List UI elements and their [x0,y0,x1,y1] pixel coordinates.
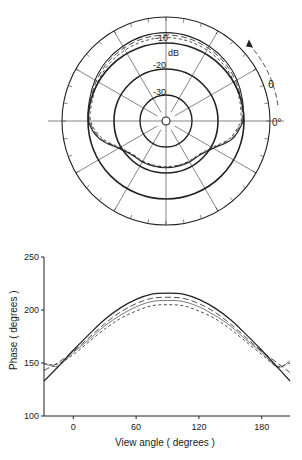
phase-series-long-dash [44,297,290,372]
polar-tick [253,69,256,71]
polar-tick [86,185,89,188]
phase-series-solid [44,293,290,381]
polar-tick [76,69,79,71]
polar-tick [148,219,149,223]
polar-tick [76,171,79,173]
polar-tick [260,85,264,86]
polar-tick [183,219,184,223]
radial-tick-label-30: -30 [153,87,166,97]
x-tick-label: 0 [71,422,76,432]
polar-tick [99,41,102,44]
polar-tick [64,103,68,104]
polar-ring [162,117,170,125]
polar-tick [243,185,246,188]
polar-tick [99,198,102,201]
polar-tick [253,171,256,173]
y-tick-label: 150 [24,358,39,368]
polar-tick [114,208,116,211]
theta-arrow-head-icon [246,39,253,47]
polar-tick [243,54,246,57]
polar-tick [200,23,201,27]
x-tick-label: 60 [131,422,141,432]
y-tick-label: 100 [24,411,39,421]
polar-tick [216,31,218,34]
radial-tick-label-10: -10 [155,33,168,43]
polar-tick [230,198,233,201]
polar-tick [260,155,264,156]
theta-arrow-arc [250,45,278,105]
polar-tick [200,215,201,219]
polar-tick [64,138,68,139]
polar-tick [86,54,89,57]
phase-series-short-dash [44,305,290,367]
polar-tick [183,19,184,23]
phase-line-chart: 100150200250060120180 [24,252,290,432]
polar-tick [230,41,233,44]
angle-zero-label: 0° [272,117,282,128]
polar-plot [48,17,284,225]
polar-tick [114,31,116,34]
y-tick-label: 250 [24,252,39,262]
polar-tick [264,103,268,104]
radial-unit-label: dB [168,48,179,58]
polar-tick [216,208,218,211]
angle-label: θ [268,78,274,90]
polar-tick [130,215,131,219]
polar-tick [148,19,149,23]
polar-tick [130,23,131,27]
figure: -10 dB -20 -30 θ 0° 10015020025006012018… [0,0,302,460]
phase-series-thin-solid [44,300,290,367]
x-axis-label: View angle ( degrees ) [115,437,215,448]
polar-tick [68,85,72,86]
x-tick-label: 180 [254,422,269,432]
polar-tick [68,155,72,156]
polar-tick [264,138,268,139]
y-tick-label: 200 [24,305,39,315]
y-axis-label: Phase ( degrees ) [8,291,19,371]
radial-tick-label-20: -20 [153,60,166,70]
x-tick-label: 120 [191,422,206,432]
